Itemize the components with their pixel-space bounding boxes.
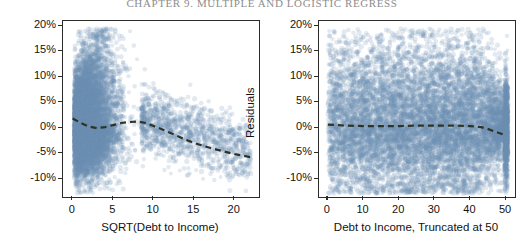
ytick-label-left-2: 10%	[6, 69, 56, 81]
xtick-mark-left-1	[112, 196, 113, 200]
ytick-label-right-3: 5%	[262, 94, 312, 106]
xtick-mark-right-1	[362, 196, 363, 200]
xtick-label-right-1: 10	[343, 203, 383, 215]
xtick-label-right-5: 50	[485, 203, 524, 215]
xtick-mark-left-4	[233, 196, 234, 200]
ytick-mark-right-4	[314, 127, 318, 128]
xtick-mark-right-3	[433, 196, 434, 200]
xtick-mark-left-0	[71, 196, 72, 200]
scatter-points-right	[319, 21, 515, 197]
ytick-mark-left-5	[58, 152, 62, 153]
ytick-mark-left-2	[58, 76, 62, 77]
ytick-label-left-5: -5%	[6, 145, 56, 157]
ytick-mark-right-5	[314, 152, 318, 153]
xtick-label-left-4: 20	[214, 203, 254, 215]
xtick-label-left-0: 0	[52, 203, 92, 215]
scatter-points-left	[63, 21, 259, 197]
figure-root: CHAPTER 9. MULTIPLE AND LOGISTIC REGRESS…	[0, 0, 524, 248]
ytick-mark-left-0	[58, 25, 62, 26]
ytick-mark-right-6	[314, 178, 318, 179]
plot-frame-left	[62, 20, 260, 198]
ytick-mark-left-4	[58, 127, 62, 128]
ytick-label-right-1: 15%	[262, 43, 312, 55]
xaxis-label-right: Debt to Income, Truncated at 50	[318, 221, 514, 233]
xaxis-label-left: SQRT(Debt to Income)	[62, 221, 258, 233]
plot-frame-right	[318, 20, 516, 198]
xtick-label-right-2: 20	[378, 203, 418, 215]
xtick-label-right-3: 30	[414, 203, 454, 215]
ytick-label-right-4: 0%	[262, 120, 312, 132]
ytick-label-left-4: 0%	[6, 120, 56, 132]
ytick-label-right-0: 20%	[262, 18, 312, 30]
xtick-label-left-3: 15	[173, 203, 213, 215]
ytick-label-left-3: 5%	[6, 94, 56, 106]
ytick-mark-right-3	[314, 101, 318, 102]
yaxis-label-right: Residuals	[244, 88, 256, 139]
xtick-mark-right-0	[326, 196, 327, 200]
xtick-label-left-1: 5	[92, 203, 132, 215]
xtick-mark-left-3	[193, 196, 194, 200]
ytick-label-left-6: -10%	[6, 171, 56, 183]
ytick-mark-left-1	[58, 50, 62, 51]
ytick-label-right-2: 10%	[262, 69, 312, 81]
xtick-mark-left-2	[152, 196, 153, 200]
xtick-mark-right-4	[469, 196, 470, 200]
ytick-label-left-0: 20%	[6, 18, 56, 30]
ytick-mark-left-6	[58, 178, 62, 179]
ytick-mark-right-1	[314, 50, 318, 51]
ytick-label-right-5: -5%	[262, 145, 312, 157]
xtick-mark-right-2	[398, 196, 399, 200]
xtick-mark-right-5	[505, 196, 506, 200]
ytick-mark-right-2	[314, 76, 318, 77]
xtick-label-right-0: 0	[307, 203, 347, 215]
ytick-label-left-1: 15%	[6, 43, 56, 55]
ytick-mark-left-3	[58, 101, 62, 102]
ytick-label-right-6: -10%	[262, 171, 312, 183]
ytick-mark-right-0	[314, 25, 318, 26]
xtick-label-right-4: 40	[449, 203, 489, 215]
running-head: CHAPTER 9. MULTIPLE AND LOGISTIC REGRESS	[0, 0, 524, 9]
xtick-label-left-2: 10	[133, 203, 173, 215]
